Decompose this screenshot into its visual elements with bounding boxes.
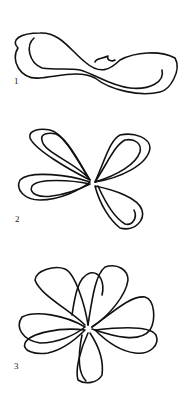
step-number-2: 2 bbox=[15, 214, 20, 224]
ribbon-double-loop-bow-icon bbox=[0, 120, 191, 255]
step-number-1: 1 bbox=[14, 76, 19, 86]
step-1-illustration: 1 bbox=[0, 0, 191, 120]
step-3-illustration: 3 bbox=[0, 255, 191, 396]
step-number-3: 3 bbox=[14, 361, 19, 371]
ribbon-full-bow-icon bbox=[0, 255, 191, 396]
ribbon-figure-eight-icon bbox=[0, 0, 191, 120]
step-2-illustration: 2 bbox=[0, 120, 191, 255]
